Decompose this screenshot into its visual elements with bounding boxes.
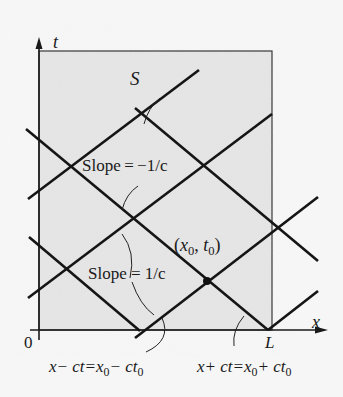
L-label: L — [265, 334, 274, 351]
characteristics-diagram — [0, 0, 343, 397]
point-x0-t0-label: (x0, t0) — [174, 236, 221, 258]
characteristic-minus-equation: x− ct=x0− ct0 — [49, 358, 143, 379]
slope-negative-label: Slope = −1/c — [82, 157, 167, 174]
x-axis-label: x — [312, 313, 320, 331]
point-x0-t0 — [203, 277, 211, 285]
region-S-label: S — [130, 69, 140, 88]
t-axis-arrow-icon — [36, 37, 43, 49]
t-axis-label: t — [53, 33, 58, 51]
characteristic-plus-equation: x+ ct=x0+ ct0 — [197, 358, 291, 379]
origin-label: 0 — [24, 334, 33, 351]
slope-positive-label: Slope = 1/c — [88, 265, 166, 282]
